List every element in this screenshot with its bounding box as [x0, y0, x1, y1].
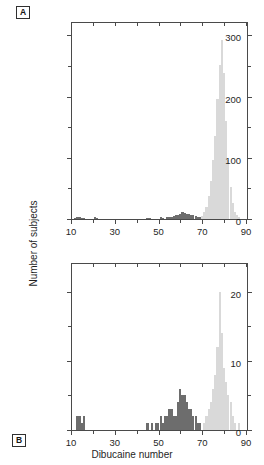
x-tick-top	[115, 22, 116, 26]
histogram-bar	[96, 218, 98, 219]
y-tick-label: 10	[230, 359, 241, 361]
figure-container: A B Number of subjects Dibucaine number …	[0, 0, 264, 465]
x-tick-minor	[180, 431, 181, 434]
x-tick-minor	[224, 220, 225, 223]
x-tick-top	[224, 263, 225, 267]
x-tick-top	[159, 22, 160, 26]
y-tick	[67, 35, 71, 36]
y-tick-right	[248, 292, 252, 293]
bars-layer-a	[72, 23, 247, 219]
x-tick	[246, 220, 247, 224]
y-tick-right	[248, 97, 252, 98]
x-tick	[159, 220, 160, 224]
x-tick	[71, 431, 72, 435]
y-axis-title: Number of subjects	[28, 164, 39, 324]
panel-label-b: B	[12, 434, 26, 447]
x-tick-minor	[137, 431, 138, 434]
x-tick	[246, 431, 247, 435]
y-tick-right	[248, 158, 252, 159]
x-tick	[202, 220, 203, 224]
histogram-bar	[162, 218, 164, 219]
x-tick-label: 30	[109, 227, 120, 237]
y-tick-minor-right	[248, 395, 251, 396]
y-tick-minor	[68, 127, 71, 128]
x-tick-label: 50	[153, 438, 164, 448]
histogram-bar	[83, 416, 85, 430]
x-tick-top	[115, 263, 116, 267]
histogram-bar	[199, 423, 201, 430]
x-tick	[115, 220, 116, 224]
y-tick-label: 0	[236, 217, 241, 219]
x-tick	[115, 431, 116, 435]
y-tick	[67, 97, 71, 98]
x-tick-minor	[180, 220, 181, 223]
y-tick-right	[248, 430, 252, 431]
y-tick-minor	[68, 188, 71, 189]
x-tick-top	[246, 263, 247, 267]
y-tick-minor-right	[248, 188, 251, 189]
x-tick-top	[246, 22, 247, 26]
histogram-bar	[146, 423, 148, 430]
x-tick-label: 70	[197, 438, 208, 448]
x-tick-label: 50	[153, 227, 164, 237]
y-tick-minor-right	[248, 326, 251, 327]
x-tick-top	[180, 263, 181, 267]
x-tick-label: 90	[241, 227, 252, 237]
x-tick-label: 10	[66, 438, 77, 448]
histogram-bar	[149, 218, 151, 219]
y-tick-right	[248, 219, 252, 220]
x-tick-top	[93, 263, 94, 267]
x-tick-top	[224, 22, 225, 26]
x-tick-minor	[137, 220, 138, 223]
x-tick-label: 10	[66, 227, 77, 237]
x-tick-minor	[224, 431, 225, 434]
y-tick-minor	[68, 326, 71, 327]
y-tick-label: 200	[225, 95, 241, 97]
y-tick	[67, 292, 71, 293]
y-tick-label: 0	[236, 428, 241, 430]
x-tick-top	[71, 263, 72, 267]
bars-layer-b	[72, 264, 247, 430]
x-tick-label: 90	[241, 438, 252, 448]
histogram-bar	[83, 218, 85, 219]
y-tick	[67, 158, 71, 159]
x-tick-top	[93, 22, 94, 26]
x-tick-top	[137, 263, 138, 267]
x-tick-top	[137, 22, 138, 26]
panel-a-plot: 01002003001030507090	[71, 22, 248, 220]
x-tick-top	[202, 22, 203, 26]
panel-b-plot: 010201030507090	[71, 263, 248, 431]
x-tick	[71, 220, 72, 224]
x-tick	[202, 431, 203, 435]
x-tick-top	[180, 22, 181, 26]
panel-label-a: A	[16, 6, 30, 19]
x-tick-minor	[93, 220, 94, 223]
y-tick-label: 20	[230, 290, 241, 292]
x-axis-title: Dibucaine number	[0, 449, 264, 460]
x-tick-top	[71, 22, 72, 26]
y-tick-minor	[68, 395, 71, 396]
y-tick-label: 300	[225, 33, 241, 35]
y-tick-right	[248, 35, 252, 36]
x-tick-label: 70	[197, 227, 208, 237]
y-tick-label: 100	[225, 156, 241, 158]
x-tick-label: 30	[109, 438, 120, 448]
y-tick-right	[248, 361, 252, 362]
y-tick-minor-right	[248, 66, 251, 67]
x-tick-minor	[93, 431, 94, 434]
x-tick-top	[159, 263, 160, 267]
histogram-bar	[151, 423, 153, 430]
y-tick	[67, 361, 71, 362]
x-tick-top	[202, 263, 203, 267]
y-tick-minor-right	[248, 127, 251, 128]
x-tick	[159, 431, 160, 435]
y-tick-minor	[68, 66, 71, 67]
